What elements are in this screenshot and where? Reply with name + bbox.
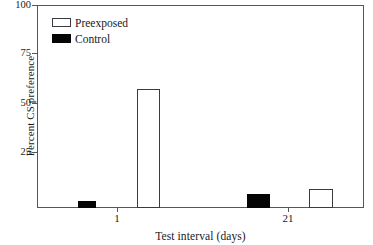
legend: Preexposed Control: [52, 16, 128, 48]
bar-preexposed-1: [137, 89, 160, 208]
legend-swatch-preexposed-icon: [52, 18, 71, 27]
legend-item-control: Control: [52, 32, 128, 45]
legend-swatch-control-icon: [52, 34, 71, 43]
bar-control-1: [78, 201, 96, 208]
legend-label-control: Control: [75, 33, 110, 45]
bar-control-21: [247, 194, 270, 208]
bar-chart-figure: 100 75 50 25 Percent CS preference 1 21 …: [0, 0, 373, 245]
x-tick-label-1: 1: [97, 212, 137, 225]
y-tick-mark-100: [32, 5, 37, 6]
x-axis-title: Test interval (days): [37, 230, 364, 243]
legend-label-preexposed: Preexposed: [75, 17, 128, 29]
x-tick-label-21: 21: [268, 212, 308, 225]
legend-item-preexposed: Preexposed: [52, 16, 128, 29]
y-axis-title: Percent CS preference: [24, 16, 36, 196]
y-tick-label-100: 100: [5, 0, 31, 10]
bar-preexposed-21: [309, 189, 333, 208]
